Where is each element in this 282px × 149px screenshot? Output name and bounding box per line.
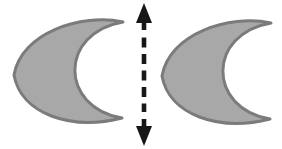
right-crescent-shape (162, 21, 271, 123)
arrowhead-down-icon (136, 126, 152, 146)
arrow-top-stem (142, 20, 147, 30)
symmetry-figure (0, 0, 282, 149)
mirror-line-arrow (136, 3, 152, 146)
left-crescent-path (14, 20, 123, 122)
left-crescent-shape (14, 20, 123, 122)
figure-canvas (0, 0, 282, 149)
right-crescent-path (162, 21, 271, 123)
